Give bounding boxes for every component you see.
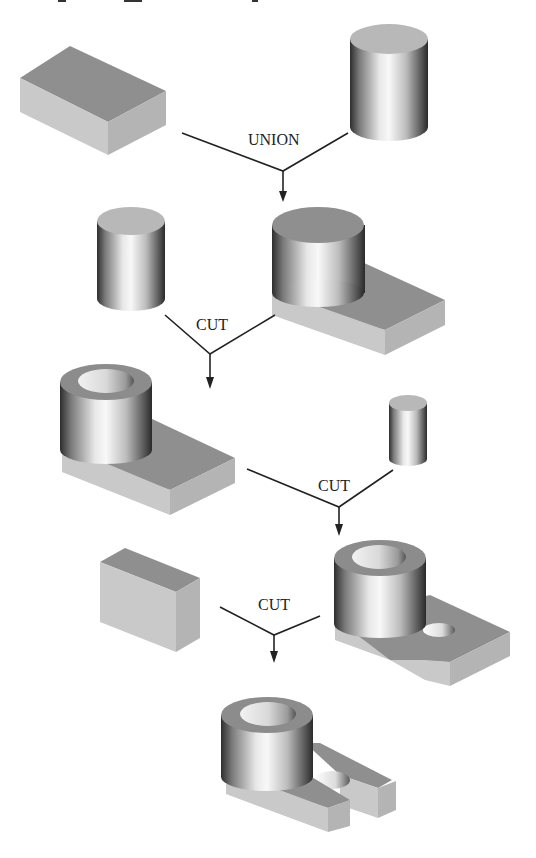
final-slotted-part-shape bbox=[221, 697, 396, 832]
union-operation: UNION bbox=[182, 131, 348, 202]
block-shape bbox=[20, 46, 166, 155]
cropped-caption bbox=[58, 0, 258, 2]
cut-label-1: CUT bbox=[196, 316, 228, 333]
cylinder-medium-shape bbox=[97, 207, 165, 311]
union-label: UNION bbox=[248, 131, 300, 148]
block-small-shape bbox=[100, 548, 200, 652]
cut-operation-1: CUT bbox=[165, 315, 275, 389]
cut-operation-2: CUT bbox=[247, 469, 393, 536]
block-with-boss-shape bbox=[272, 207, 445, 355]
cut-label-2: CUT bbox=[318, 477, 350, 494]
csg-diagram: UNION CUT bbox=[0, 0, 536, 858]
cut-label-3: CUT bbox=[258, 596, 290, 613]
cylinder-large-shape bbox=[350, 24, 428, 141]
boss-with-bore-shape bbox=[60, 364, 235, 515]
cylinder-small-shape bbox=[389, 395, 427, 466]
cut-operation-3: CUT bbox=[220, 596, 320, 663]
part-with-hole-shape bbox=[334, 540, 510, 686]
